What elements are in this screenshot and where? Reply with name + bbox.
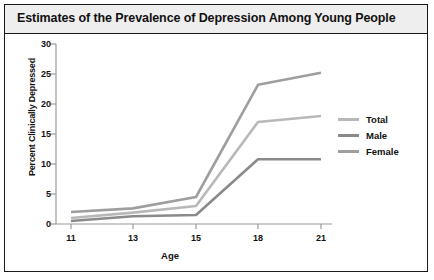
legend-swatch-total <box>338 118 359 121</box>
legend-label-total: Total <box>366 112 388 128</box>
x-axis-ticks <box>71 224 321 229</box>
legend-label-male: Male <box>366 128 387 144</box>
page-title: Estimates of the Prevalence of Depressio… <box>17 11 396 25</box>
y-tick-label-10: 10 <box>23 159 51 169</box>
legend-item-male: Male <box>338 127 428 143</box>
x-tick-label-15: 15 <box>181 233 211 243</box>
y-tick-label-25: 25 <box>23 69 51 79</box>
x-tick-label-11: 11 <box>56 233 86 243</box>
y-tick-label-15: 15 <box>23 129 51 139</box>
legend-item-total: Total <box>338 111 428 127</box>
y-tick-label-20: 20 <box>23 99 51 109</box>
legend-label-female: Female <box>366 144 399 160</box>
y-tick-label-0: 0 <box>23 219 51 229</box>
x-tick-label-13: 13 <box>118 233 148 243</box>
series-line-total <box>71 116 321 218</box>
legend: Total Male Female <box>338 111 428 159</box>
legend-item-female: Female <box>338 143 428 159</box>
series-line-female <box>71 73 321 212</box>
series-line-male <box>71 159 321 221</box>
legend-swatch-female <box>338 150 359 153</box>
x-tick-label-18: 18 <box>243 233 273 243</box>
chart-figure: Estimates of the Prevalence of Depressio… <box>4 4 428 272</box>
legend-swatch-male <box>338 134 359 137</box>
plot-area: Percent Clinically Depressed Age 0 5 10 … <box>5 34 429 271</box>
y-tick-label-30: 30 <box>23 39 51 49</box>
y-tick-label-5: 5 <box>23 189 51 199</box>
x-axis-label: Age <box>5 250 335 261</box>
x-tick-label-21: 21 <box>306 233 336 243</box>
